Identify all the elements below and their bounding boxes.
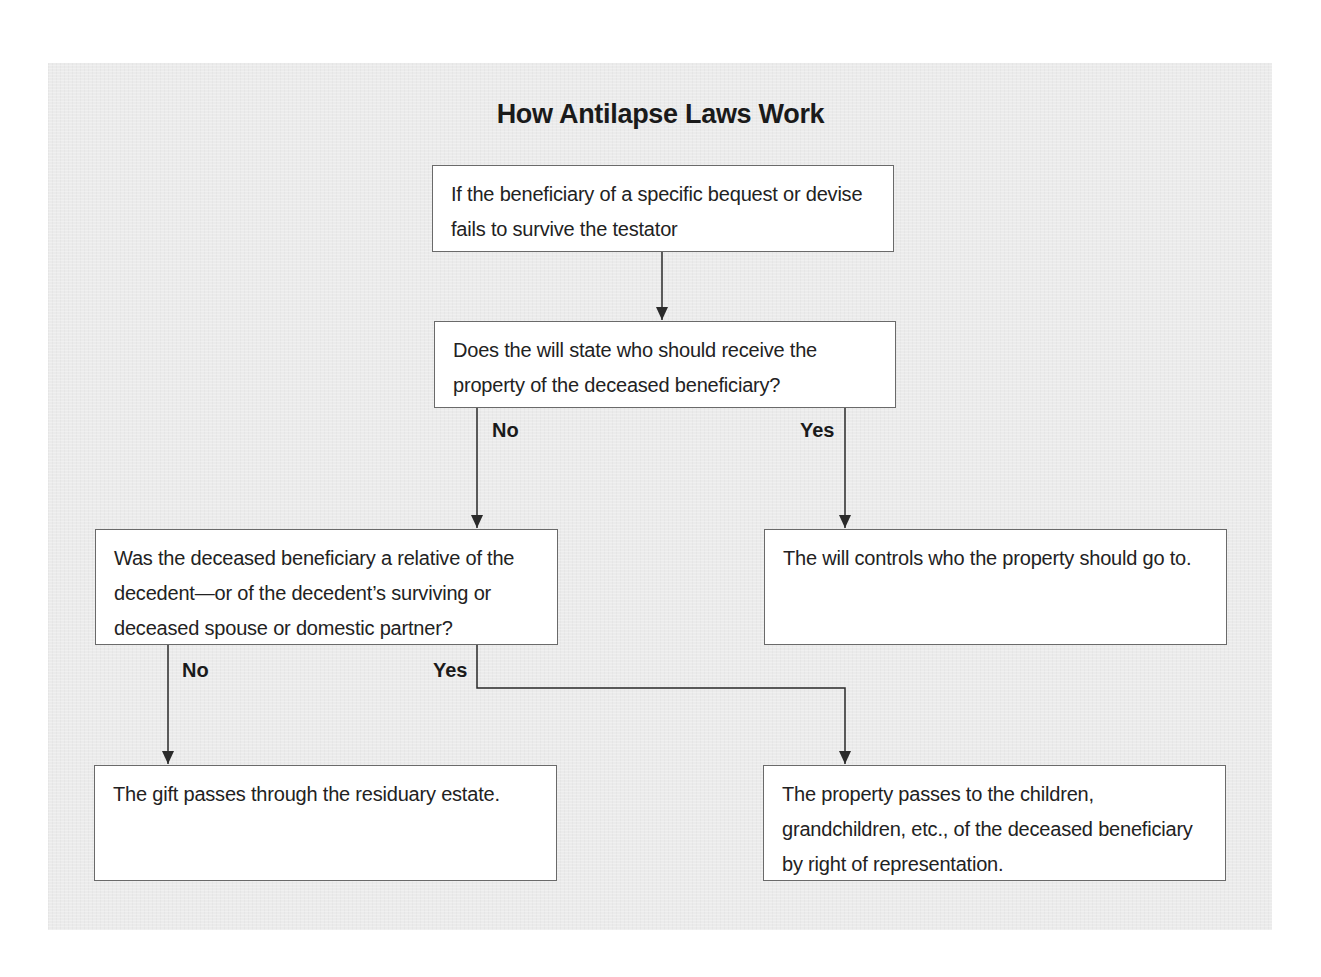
edge-label-q1-no: No xyxy=(492,419,519,442)
node-question-will-states-text: Does the will state who should receive t… xyxy=(453,339,817,396)
node-residuary-estate-text: The gift passes through the residuary es… xyxy=(113,783,500,805)
node-will-controls: The will controls who the property shoul… xyxy=(764,529,1227,645)
node-residuary-estate: The gift passes through the residuary es… xyxy=(94,765,557,881)
node-start-text: If the beneficiary of a specific bequest… xyxy=(451,183,862,240)
node-question-relative-text: Was the deceased beneficiary a relative … xyxy=(114,547,514,639)
node-start: If the beneficiary of a specific bequest… xyxy=(432,165,894,252)
node-right-of-representation: The property passes to the children, gra… xyxy=(763,765,1226,881)
edge-label-q2-no: No xyxy=(182,659,209,682)
diagram-title: How Antilapse Laws Work xyxy=(0,99,1321,130)
edge-label-q2-yes: Yes xyxy=(433,659,467,682)
edge-label-q1-yes: Yes xyxy=(800,419,834,442)
node-will-controls-text: The will controls who the property shoul… xyxy=(783,547,1191,569)
node-right-of-representation-text: The property passes to the children, gra… xyxy=(782,783,1193,875)
node-question-relative: Was the deceased beneficiary a relative … xyxy=(95,529,558,645)
node-question-will-states: Does the will state who should receive t… xyxy=(434,321,896,408)
